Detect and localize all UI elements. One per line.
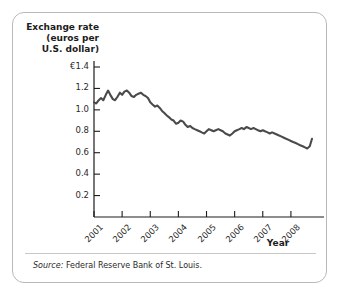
source-label: Source:	[33, 261, 63, 270]
source-value: Federal Reserve Bank of St. Louis.	[63, 261, 202, 270]
exchange-rate-data-line	[94, 91, 312, 149]
source-divider	[25, 253, 316, 254]
y-tick-label: 0.2	[75, 190, 89, 200]
figure-card: Exchange rate (euros per U.S. dollar) €1…	[12, 12, 327, 283]
x-axis-title: Year	[243, 238, 313, 249]
x-axis-tick-marks	[94, 211, 291, 217]
y-tick-label: 0.8	[75, 125, 89, 135]
y-tick-label: 0.6	[75, 147, 89, 157]
source-note: Source: Federal Reserve Bank of St. Loui…	[33, 261, 202, 270]
y-tick-label: 1.2	[75, 82, 89, 92]
y-tick-label: 0.4	[75, 168, 89, 178]
y-tick-label: €1.4	[70, 61, 89, 71]
y-tick-label: 1.0	[75, 104, 89, 114]
y-axis-tick-marks	[94, 67, 100, 196]
